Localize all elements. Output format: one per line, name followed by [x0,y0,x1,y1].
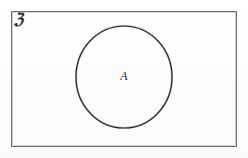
universal-set-label: ℨ [14,12,23,27]
venn-diagram-figure: ℨ A [0,0,248,158]
set-a-label: A [110,70,138,82]
